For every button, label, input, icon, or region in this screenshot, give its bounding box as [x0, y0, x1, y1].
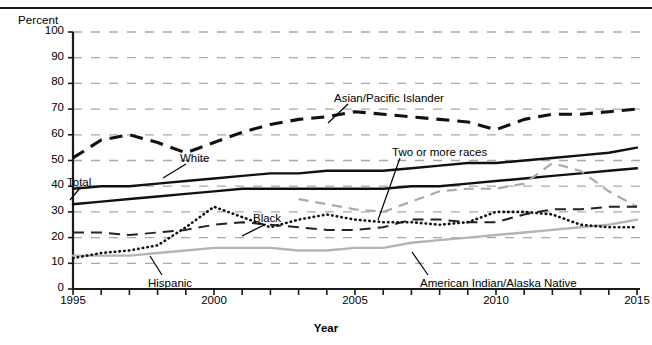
leader-aian [412, 252, 428, 275]
series-line-total [73, 168, 637, 204]
x-tick-label-2010: 2010 [472, 294, 520, 306]
series-line-hispanic [73, 220, 637, 256]
y-tick-label-100: 100 [30, 24, 64, 36]
y-tick-label-10: 10 [30, 255, 64, 267]
gridlines-group [73, 32, 640, 289]
series-label-white: White [180, 152, 209, 164]
leader-hispanic [150, 256, 162, 275]
y-tick-label-90: 90 [30, 50, 64, 62]
y-tick-label-50: 50 [30, 153, 64, 165]
series-label-asian: Asian/Pacific Islander [334, 92, 444, 104]
series-label-hispanic: Hispanic [148, 277, 192, 289]
x-tick-label-2000: 2000 [190, 294, 238, 306]
series-label-two-or-more: Two or more races [392, 146, 487, 158]
series-line-white [73, 148, 637, 189]
y-tick-label-60: 60 [30, 127, 64, 139]
figure-container: Percent Year 0102030405060708090100 1995… [0, 0, 652, 345]
x-tick-label-2015: 2015 [613, 294, 652, 306]
x-tick-label-2005: 2005 [331, 294, 379, 306]
y-tick-label-70: 70 [30, 101, 64, 113]
chart-canvas [0, 0, 652, 345]
leader-asian [328, 104, 348, 123]
series-label-black: Black [253, 212, 281, 224]
y-tick-label-30: 30 [30, 204, 64, 216]
y-tick-label-20: 20 [30, 230, 64, 242]
y-tick-label-80: 80 [30, 75, 64, 87]
series-line-asian-pacific-islander [73, 109, 637, 158]
leader-total [70, 188, 80, 200]
y-tick-label-40: 40 [30, 178, 64, 190]
y-tick-label-0: 0 [30, 281, 64, 293]
series-line-american-indian-alaska-native [73, 207, 637, 258]
series-label-aian: American Indian/Alaska Native [420, 277, 577, 289]
series-label-total: Total [67, 176, 91, 188]
data-series-group [73, 109, 637, 258]
leader-white [163, 164, 186, 178]
leader-black [242, 224, 266, 236]
x-tick-label-1995: 1995 [49, 294, 97, 306]
